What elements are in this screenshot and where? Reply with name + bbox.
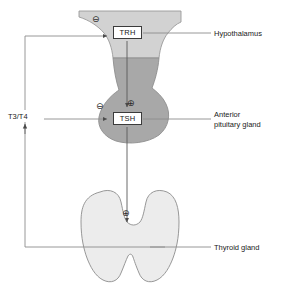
organ-label-hypothalamus: Hypothalamus	[214, 29, 262, 39]
plus-circle-icon-tsh: ⊕	[127, 99, 135, 108]
organ-label-anterior-pituitary-line1: Anterior	[214, 110, 261, 120]
organ-label-anterior-pituitary: Anterior pituitary gland	[214, 110, 261, 130]
feedback-label-t3-t4: T3/T4	[8, 112, 28, 122]
plus-circle-icon-thyroid: ⊕	[122, 209, 130, 218]
minus-circle-icon-trh: ⊖	[92, 15, 100, 24]
thyroid-gland-shape	[81, 190, 179, 281]
hpt-axis-diagram: TRH TSH ⊖ ⊖ ⊕ ⊕ Hypothalamus Anterior pi…	[0, 0, 286, 289]
organ-label-anterior-pituitary-line2: pituitary gland	[214, 120, 261, 130]
hormone-box-trh: TRH	[113, 26, 142, 39]
minus-circle-icon-tsh: ⊖	[96, 102, 104, 111]
organ-label-thyroid-gland: Thyroid gland	[214, 243, 259, 253]
hormone-box-tsh: TSH	[113, 112, 142, 125]
